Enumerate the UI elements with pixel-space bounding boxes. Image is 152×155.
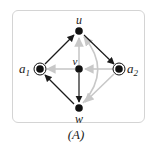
edge-a1-u [45, 35, 74, 64]
node-w [75, 104, 83, 112]
node-u [75, 27, 83, 35]
node-a2-terminal [113, 63, 125, 75]
edge-w-a1 [45, 75, 74, 104]
label-w: w [75, 112, 83, 126]
label-u: u [76, 13, 82, 27]
node-a1-terminal [34, 63, 46, 75]
label-v: v [73, 55, 78, 67]
label-a2: a2 [127, 61, 139, 78]
edge-u-a2 [84, 35, 114, 64]
edge-a2-w [85, 74, 114, 102]
label-a1: a1 [19, 61, 30, 78]
figure-caption: (A) [0, 127, 152, 143]
